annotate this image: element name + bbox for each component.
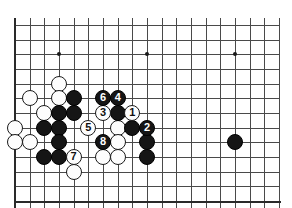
- white-stone-d5[interactable]: [51, 76, 67, 92]
- board-edge-bottom: [14, 201, 281, 203]
- white-stone-b9[interactable]: [7, 134, 23, 150]
- black-stone-i6[interactable]: [110, 105, 126, 121]
- move-stone-6[interactable]: 6: [95, 90, 111, 106]
- white-stone-g9[interactable]: [95, 149, 111, 165]
- black-stone-j8[interactable]: [124, 120, 140, 136]
- stone-move-number: 5: [85, 122, 91, 133]
- grid-line-horizontal: [15, 69, 279, 70]
- black-stone-c8[interactable]: [36, 120, 52, 136]
- grid-line-horizontal: [15, 172, 279, 173]
- move-stone-4[interactable]: 4: [110, 90, 126, 106]
- black-stone-d9[interactable]: [51, 134, 67, 150]
- white-stone-h8[interactable]: [110, 120, 126, 136]
- star-point-right: [233, 52, 237, 56]
- black-stone-right-hoshi[interactable]: [227, 134, 243, 150]
- grid-line-horizontal: [15, 40, 279, 41]
- black-stone-d10[interactable]: [51, 149, 67, 165]
- grid-line-horizontal: [15, 25, 279, 26]
- black-stone-k10[interactable]: [139, 149, 155, 165]
- black-stone-f7[interactable]: [66, 105, 82, 121]
- black-stone-e7[interactable]: [51, 105, 67, 121]
- white-stone-h10[interactable]: [110, 149, 126, 165]
- go-board-diagram: 12345678: [0, 0, 292, 208]
- star-point-left: [57, 52, 61, 56]
- black-stone-f6[interactable]: [66, 90, 82, 106]
- board-edge-left: [14, 18, 16, 208]
- move-stone-5[interactable]: 5: [80, 120, 96, 136]
- white-stone-d7[interactable]: [36, 105, 52, 121]
- stone-move-number: 4: [115, 92, 121, 103]
- white-stone-h9[interactable]: [110, 134, 126, 150]
- white-stone-e6[interactable]: [51, 90, 67, 106]
- white-stone-e11[interactable]: [66, 164, 82, 180]
- black-stone-k9[interactable]: [139, 134, 155, 150]
- black-stone-d8[interactable]: [51, 120, 67, 136]
- star-point-center: [145, 52, 149, 56]
- goban-grid: 12345678: [0, 0, 292, 208]
- white-stone-c6[interactable]: [22, 90, 38, 106]
- stone-move-number: 1: [129, 107, 135, 118]
- move-stone-3[interactable]: 3: [95, 105, 111, 121]
- grid-line-vertical: [279, 18, 280, 208]
- stone-move-number: 6: [100, 92, 106, 103]
- move-stone-2[interactable]: 2: [139, 120, 155, 136]
- stone-move-number: 2: [144, 122, 150, 133]
- grid-line-horizontal: [15, 186, 279, 187]
- move-stone-7[interactable]: 7: [66, 149, 82, 165]
- move-stone-1[interactable]: 1: [124, 105, 140, 121]
- stone-move-number: 3: [100, 107, 106, 118]
- white-stone-c9[interactable]: [22, 134, 38, 150]
- white-stone-b8[interactable]: [7, 120, 23, 136]
- move-stone-8[interactable]: 8: [95, 134, 111, 150]
- stone-move-number: 7: [71, 151, 77, 162]
- black-stone-c10[interactable]: [36, 149, 52, 165]
- stone-move-number: 8: [100, 136, 106, 147]
